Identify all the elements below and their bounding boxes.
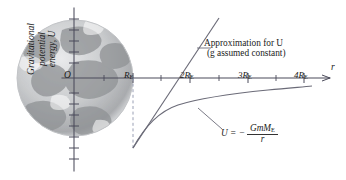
origin-label: O: [64, 71, 71, 81]
formula-numerator-main: GmM: [250, 123, 271, 133]
approximation-annotation: Approximation for U (g assumed constant): [204, 39, 286, 59]
x-tick-2re-sub: E: [190, 74, 194, 80]
x-tick-label-re: RE: [124, 71, 133, 81]
x-tick-3re-sub: E: [248, 74, 252, 80]
x-tick-re-sub: E: [130, 74, 134, 80]
potential-energy-formula: U = − GmME r: [221, 124, 278, 144]
formula-lhs: U = −: [221, 129, 245, 139]
formula-fraction: GmME r: [247, 124, 278, 144]
formula-numerator-sub: E: [271, 126, 275, 133]
approximation-line-2: (g assumed constant): [204, 49, 286, 59]
y-axis-title-line-1: Gravitational: [26, 6, 37, 92]
formula-leader-line: [198, 108, 222, 129]
x-axis-symbol: r: [331, 63, 335, 73]
x-tick-4re-main: 4R: [294, 70, 304, 80]
y-axis-title-line-3: energy, U: [47, 6, 58, 92]
x-tick-label-4re: 4RE: [294, 71, 308, 81]
x-tick-label-3re: 3RE: [238, 71, 252, 81]
y-axis-title-line-2: potential: [37, 6, 48, 92]
figure-canvas: Gravitational potential energy, U O RE 2…: [0, 0, 346, 180]
formula-denominator: r: [261, 135, 265, 144]
x-tick-4re-sub: E: [304, 74, 308, 80]
x-tick-3re-main: 3R: [238, 70, 248, 80]
x-tick-label-2re: 2RE: [180, 71, 194, 81]
x-tick-2re-main: 2R: [180, 70, 190, 80]
